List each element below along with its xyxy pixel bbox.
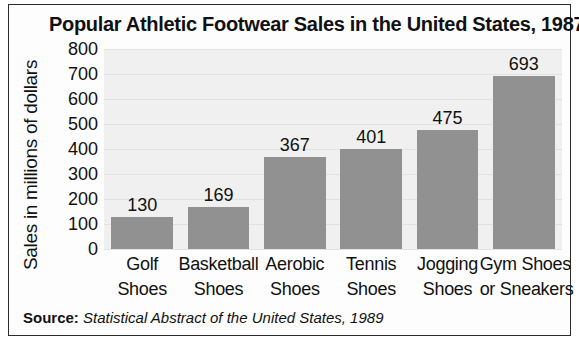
y-axis-label: Sales in millions of dollars — [19, 50, 43, 280]
bar-column: 130 — [111, 49, 173, 249]
bar-column: 693 — [493, 49, 555, 249]
y-axis-tick-0: 0 — [88, 239, 98, 259]
source-value: Statistical Abstract of the United State… — [83, 309, 383, 326]
x-axis-category-labels: GolfShoesBasketballShoesAerobicShoesTenn… — [104, 252, 562, 304]
y-axis-tick-200: 200 — [68, 189, 98, 209]
x-axis-label: Gym Shoesor Sneakers — [480, 252, 568, 302]
y-axis-tick-300: 300 — [68, 164, 98, 184]
x-axis-label: JoggingShoes — [403, 252, 491, 302]
x-axis-label-line: Basketball — [174, 252, 262, 277]
bar — [111, 217, 173, 250]
bar-column: 169 — [188, 49, 250, 249]
bar-column: 367 — [264, 49, 326, 249]
x-axis-label-line: Shoes — [98, 277, 186, 302]
bar-column: 475 — [417, 49, 479, 249]
y-axis-tick-labels: 8007006005004003002001000 — [53, 39, 98, 251]
x-axis-label: GolfShoes — [98, 252, 186, 302]
x-axis-label-line: Shoes — [251, 277, 339, 302]
y-axis-tick-800: 800 — [68, 39, 98, 59]
x-axis-label: BasketballShoes — [174, 252, 262, 302]
bar-value-label: 367 — [264, 135, 326, 156]
y-axis-tick-400: 400 — [68, 139, 98, 159]
x-axis-label-line: Aerobic — [251, 252, 339, 277]
y-axis-tick-100: 100 — [68, 214, 98, 234]
bar-value-label: 401 — [340, 127, 402, 148]
bar — [264, 157, 326, 249]
source-note: Source: Statistical Abstract of the Unit… — [23, 306, 563, 330]
bar-value-label: 475 — [417, 108, 479, 129]
x-axis-label-line: Golf — [98, 252, 186, 277]
chart-figure: Popular Athletic Footwear Sales in the U… — [8, 4, 571, 336]
bar — [340, 149, 402, 249]
bar — [417, 130, 479, 249]
x-axis-label-line: Shoes — [174, 277, 262, 302]
x-axis-label-line: or Sneakers — [480, 277, 568, 302]
bar-value-label: 130 — [111, 195, 173, 216]
y-axis-tick-600: 600 — [68, 89, 98, 109]
x-axis-label-line: Jogging — [403, 252, 491, 277]
plot-area: 130169367401475693 — [104, 49, 562, 249]
bar-value-label: 169 — [188, 185, 250, 206]
x-axis-label: TennisShoes — [327, 252, 415, 302]
bar-column: 401 — [340, 49, 402, 249]
x-axis-label-line: Gym Shoes — [480, 252, 568, 277]
x-axis-label-line: Tennis — [327, 252, 415, 277]
chart-title: Popular Athletic Footwear Sales in the U… — [49, 11, 564, 37]
x-axis-label: AerobicShoes — [251, 252, 339, 302]
bar-value-label: 693 — [493, 54, 555, 75]
bar — [493, 76, 555, 249]
source-label: Source: — [23, 309, 79, 326]
x-axis-label-line: Shoes — [403, 277, 491, 302]
y-axis-tick-700: 700 — [68, 64, 98, 84]
y-axis-tick-500: 500 — [68, 114, 98, 134]
x-axis-label-line: Shoes — [327, 277, 415, 302]
gridline-0 — [104, 249, 562, 250]
bar — [188, 207, 250, 249]
